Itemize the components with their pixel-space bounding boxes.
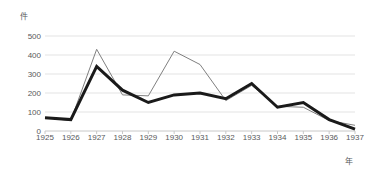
series-line-black-thick-series (45, 66, 355, 129)
y-axis-tick-500: 500 (3, 32, 41, 41)
x-axis-tick-1926: 1926 (62, 133, 80, 142)
y-axis-tick-labels: 0100200300400500 (0, 0, 41, 172)
line-chart: 件 0100200300400500 192519261927192819291… (0, 0, 378, 172)
plot-area (45, 36, 355, 131)
x-axis-unit-label: 年 (345, 155, 353, 166)
x-axis-tick-1935: 1935 (294, 133, 312, 142)
x-axis-tick-1930: 1930 (165, 133, 183, 142)
x-axis-tick-1927: 1927 (88, 133, 106, 142)
x-axis-tick-1929: 1929 (139, 133, 157, 142)
y-axis-tick-300: 300 (3, 70, 41, 79)
y-axis-tick-200: 200 (3, 89, 41, 98)
x-axis-tick-1936: 1936 (320, 133, 338, 142)
y-axis-tick-400: 400 (3, 51, 41, 60)
series-line-gray-thin-series (45, 49, 355, 125)
x-axis-tick-labels: 1925192619271928192919301931193219331934… (45, 133, 355, 147)
y-axis-tick-100: 100 (3, 108, 41, 117)
x-axis-tick-1931: 1931 (191, 133, 209, 142)
data-series-layer (45, 36, 355, 131)
x-axis-tick-1925: 1925 (36, 133, 54, 142)
x-axis-tick-1937: 1937 (346, 133, 364, 142)
x-axis-tick-1928: 1928 (114, 133, 132, 142)
x-axis-tick-1932: 1932 (217, 133, 235, 142)
x-axis-tick-1934: 1934 (269, 133, 287, 142)
x-axis-tick-1933: 1933 (243, 133, 261, 142)
